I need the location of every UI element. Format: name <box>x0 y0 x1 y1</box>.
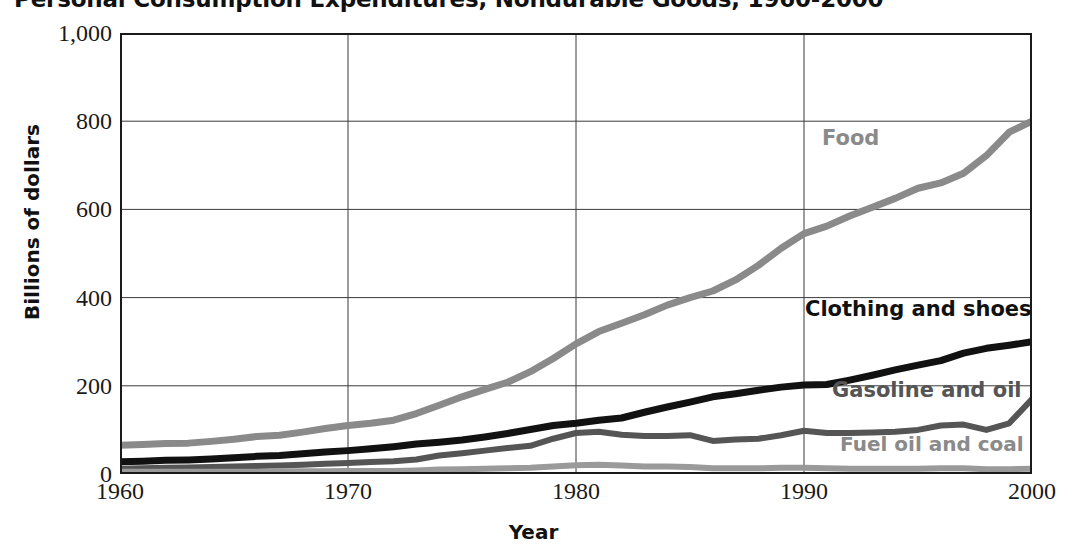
x-tick-label: 1980 <box>552 478 600 505</box>
chart-figure: Personal Consumption Expenditures, Nondu… <box>0 0 1067 549</box>
y-tick-label: 400 <box>4 284 112 311</box>
x-tick-label: 1960 <box>96 478 144 505</box>
series-label-food: Food <box>822 126 879 150</box>
y-tick-label: 600 <box>4 196 112 223</box>
series-label-fuel: Fuel oil and coal <box>840 432 1024 456</box>
x-tick-label: 1970 <box>324 478 372 505</box>
y-tick-label: 1,000 <box>4 20 112 47</box>
y-tick-label: 800 <box>4 108 112 135</box>
series-label-clothing: Clothing and shoes <box>805 297 1032 321</box>
x-tick-label: 2000 <box>1008 478 1056 505</box>
x-axis-title: Year <box>0 520 1067 544</box>
x-tick-label: 1990 <box>780 478 828 505</box>
series-label-gasoline: Gasoline and oil <box>832 378 1022 402</box>
page-title: Personal Consumption Expenditures, Nondu… <box>14 0 1064 12</box>
y-tick-label: 200 <box>4 372 112 399</box>
gridlines <box>120 33 1032 474</box>
y-axis-tick-labels: 1,0008006004002000 <box>0 0 112 549</box>
plot-area <box>120 33 1032 474</box>
line-chart-svg <box>120 33 1032 474</box>
